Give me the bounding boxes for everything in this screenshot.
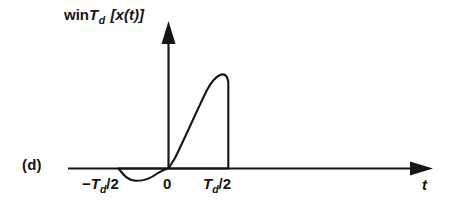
- y-axis-label: winTd[x(t)]: [64, 7, 144, 25]
- signal-waveform: [119, 74, 229, 180]
- t-axis-arrowhead: [410, 162, 433, 176]
- tick-label-positive-half-window: Td/2: [203, 176, 231, 194]
- y-axis-argument: [x(t)]: [111, 6, 144, 23]
- panel-tag: (d): [22, 157, 42, 172]
- t-axis-label: t: [422, 177, 427, 192]
- y-axis-subscript-base: T: [89, 6, 98, 23]
- tick-neg-suffix: /2: [106, 175, 119, 192]
- y-axis-arrowhead: [162, 21, 176, 44]
- y-axis-subscript-sub: d: [99, 14, 105, 26]
- tick-zero-base: 0: [163, 175, 171, 192]
- figure-container: (d) winTd[x(t)] −Td/2 0 Td/2 t: [0, 0, 453, 212]
- tick-label-negative-half-window: −Td/2: [82, 176, 119, 194]
- tick-pos-suffix: /2: [219, 175, 232, 192]
- tick-label-origin: 0: [163, 176, 171, 191]
- y-axis-function-name: win: [64, 6, 89, 23]
- tick-neg-prefix: −: [82, 175, 91, 192]
- tick-pos-base: T: [203, 175, 212, 192]
- tick-neg-base: T: [91, 175, 100, 192]
